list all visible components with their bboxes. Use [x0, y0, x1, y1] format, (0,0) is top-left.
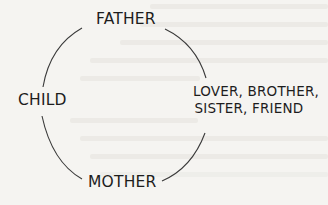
scanned-page: FATHER LOVER, BROTHER, SISTER, FRIEND MO…: [0, 0, 328, 205]
arc-lover-to-mother: [162, 133, 205, 181]
arc-father-to-lover: [165, 29, 206, 78]
node-mother-label: MOTHER: [88, 175, 156, 191]
arc-child-to-father: [43, 28, 82, 87]
node-child-label: CHILD: [18, 93, 67, 109]
node-lover-label-line-2: SISTER, FRIEND: [193, 100, 305, 117]
arc-mother-to-child: [42, 116, 82, 179]
node-father-label: FATHER: [96, 12, 156, 28]
node-lover-label-line-1: LOVER, BROTHER,: [193, 83, 305, 100]
node-lover-brother-sister-friend-label: LOVER, BROTHER, SISTER, FRIEND: [193, 83, 305, 117]
